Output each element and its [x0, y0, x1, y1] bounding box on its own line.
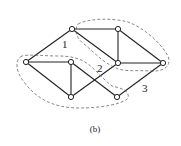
region-label-3: 3: [142, 82, 148, 94]
dashed-regions: [17, 19, 169, 108]
node-e: [115, 26, 120, 31]
node-d: [68, 94, 73, 99]
region-label-2: 2: [97, 62, 103, 74]
node-c: [68, 59, 73, 64]
edge-b-f: [72, 29, 118, 63]
node-b: [69, 26, 74, 31]
region-label-1: 1: [62, 38, 68, 50]
node-g: [114, 94, 119, 99]
figure-caption: (b): [90, 124, 101, 134]
edge-g-h: [117, 63, 163, 97]
node-f: [115, 60, 120, 65]
node-a: [23, 59, 28, 64]
node-h: [160, 60, 165, 65]
edge-e-h: [118, 29, 163, 63]
